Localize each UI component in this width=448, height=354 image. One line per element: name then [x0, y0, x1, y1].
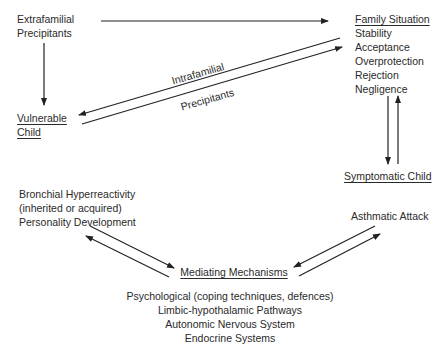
- extrafamilial-line-2: Precipitants: [17, 26, 74, 40]
- node-extrafamilial-precipitants: Extrafamilial Precipitants: [17, 12, 74, 40]
- bronchial-line-2: (inherited or acquired): [19, 201, 136, 215]
- mediating-item-limbic: Limbic-hypothalamic Pathways: [110, 303, 350, 317]
- vulnerable-line-2: Child: [17, 125, 67, 139]
- mediating-item-psychological: Psychological (coping techniques, defenc…: [110, 289, 350, 303]
- family-item-stability: Stability: [355, 26, 430, 40]
- arrow-mediating-to-bronchial: [86, 236, 169, 277]
- node-family-situation: Family Situation Stability Acceptance Ov…: [355, 12, 430, 96]
- vulnerable-line-1: Vulnerable: [17, 111, 67, 125]
- extrafamilial-line-1: Extrafamilial: [17, 12, 74, 26]
- bronchial-line-3: Personality Development: [19, 215, 136, 229]
- mediating-item-autonomic: Autonomic Nervous System: [110, 317, 350, 331]
- node-mediating-mechanisms-title: Mediating Mechanisms: [180, 265, 288, 279]
- node-symptomatic-child: Symptomatic Child: [344, 169, 432, 183]
- node-bronchial-hyperreactivity: Bronchial Hyperreactivity (inherited or …: [19, 187, 136, 229]
- arrow-vulnerable-to-family: [82, 47, 342, 124]
- node-asthmatic-attack: Asthmatic Attack: [351, 209, 429, 223]
- arrow-asthmatic-to-mediating: [294, 226, 375, 267]
- node-vulnerable-child: Vulnerable Child: [17, 111, 67, 139]
- node-mediating-mechanisms-list: Psychological (coping techniques, defenc…: [110, 289, 350, 345]
- family-item-acceptance: Acceptance: [355, 40, 430, 54]
- arrow-bronchial-to-mediating: [90, 226, 174, 268]
- family-situation-title: Family Situation: [355, 12, 430, 26]
- family-item-overprotection: Overprotection: [355, 54, 430, 68]
- family-item-negligence: Negligence: [355, 82, 430, 96]
- arrow-mediating-to-asthmatic: [299, 234, 380, 276]
- mediating-item-endocrine: Endocrine Systems: [110, 331, 350, 345]
- bronchial-line-1: Bronchial Hyperreactivity: [19, 187, 136, 201]
- family-item-rejection: Rejection: [355, 68, 430, 82]
